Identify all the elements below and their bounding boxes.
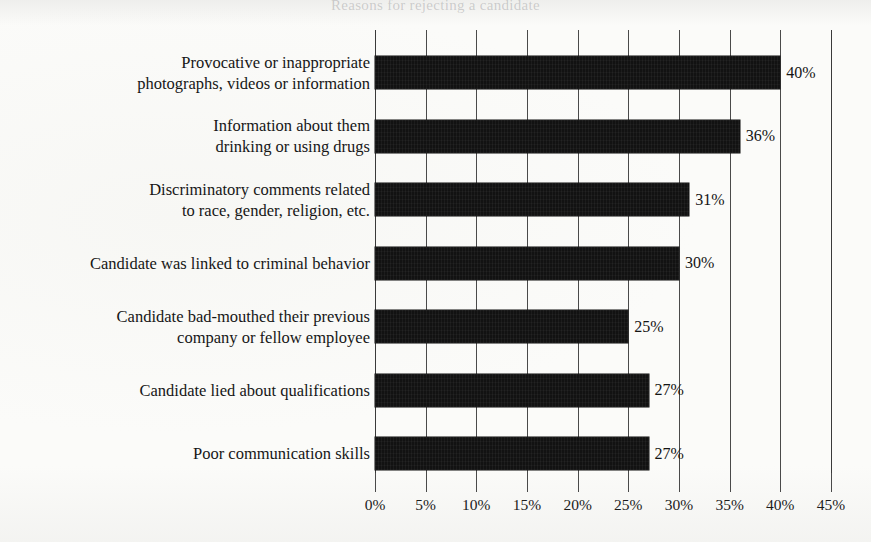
category-label: Candidate bad-mouthed their previous com… xyxy=(10,306,370,348)
category-label: Candidate was linked to criminal behavio… xyxy=(10,253,370,274)
tick-45 xyxy=(831,473,832,492)
tick-40 xyxy=(780,473,781,492)
tick-5 xyxy=(426,473,427,492)
bar-value-label: 25% xyxy=(634,319,663,335)
x-tick-label: 45% xyxy=(801,496,861,514)
tick-10 xyxy=(476,473,477,492)
tick-0 xyxy=(375,473,376,492)
tick-35 xyxy=(730,473,731,492)
gridline-45 xyxy=(831,30,832,473)
bar xyxy=(375,247,679,280)
tick-15 xyxy=(527,473,528,492)
bar-value-label: 40% xyxy=(786,65,815,81)
category-axis-labels: Provocative or inappropriate photographs… xyxy=(5,0,370,542)
category-label: Poor communication skills xyxy=(10,443,370,464)
tick-25 xyxy=(628,473,629,492)
bar-value-label: 36% xyxy=(746,128,775,144)
bar xyxy=(375,310,628,343)
category-label: Information about them drinking or using… xyxy=(10,115,370,157)
category-label: Discriminatory comments related to race,… xyxy=(10,179,370,221)
gridline-40 xyxy=(780,30,781,473)
bar xyxy=(375,56,780,89)
gridline-30 xyxy=(679,30,680,473)
bar-value-label: 27% xyxy=(655,382,684,398)
bar-value-label: 27% xyxy=(655,446,684,462)
gridline-35 xyxy=(730,30,731,473)
tick-20 xyxy=(578,473,579,492)
tick-30 xyxy=(679,473,680,492)
bar-value-label: 30% xyxy=(685,255,714,271)
bar xyxy=(375,437,649,470)
bar xyxy=(375,374,649,407)
category-label: Provocative or inappropriate photographs… xyxy=(10,52,370,94)
chart-page: Reasons for rejecting a candidate Provoc… xyxy=(0,0,871,542)
bar xyxy=(375,183,689,216)
bar xyxy=(375,120,740,153)
horizontal-bar-chart: Provocative or inappropriate photographs… xyxy=(0,0,871,542)
plot-area xyxy=(375,30,831,473)
bar-value-label: 31% xyxy=(695,192,724,208)
category-label: Candidate lied about qualifications xyxy=(10,380,370,401)
